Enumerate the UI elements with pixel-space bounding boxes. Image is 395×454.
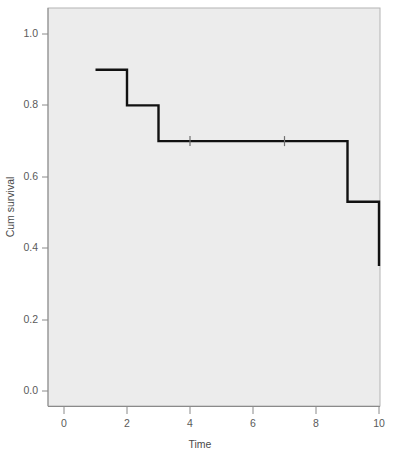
plot-area-background [48, 8, 380, 406]
y-axis-ticks [42, 34, 48, 391]
x-tick-label-8: 8 [313, 417, 319, 429]
y-tick-label-0.0: 0.0 [23, 384, 38, 396]
survival-chart: 1.0 0.8 0.6 0.4 0.2 0.0 0 2 4 6 8 10 Tim… [0, 0, 395, 454]
x-tick-label-10: 10 [373, 417, 385, 429]
x-axis-ticks [64, 407, 379, 414]
y-tick-label-0.2: 0.2 [23, 313, 38, 325]
y-tick-label-0.8: 0.8 [23, 98, 38, 110]
y-tick-label-0.6: 0.6 [23, 170, 38, 182]
chart-canvas: 1.0 0.8 0.6 0.4 0.2 0.0 0 2 4 6 8 10 Tim… [0, 0, 395, 454]
x-tick-label-4: 4 [187, 417, 193, 429]
x-axis-title: Time [189, 438, 212, 450]
x-tick-label-0: 0 [61, 417, 67, 429]
x-tick-label-2: 2 [124, 417, 130, 429]
y-tick-label-0.4: 0.4 [23, 241, 38, 253]
y-axis-title: Cum survival [4, 177, 16, 238]
y-tick-label-1.0: 1.0 [23, 27, 38, 39]
x-tick-label-6: 6 [250, 417, 256, 429]
